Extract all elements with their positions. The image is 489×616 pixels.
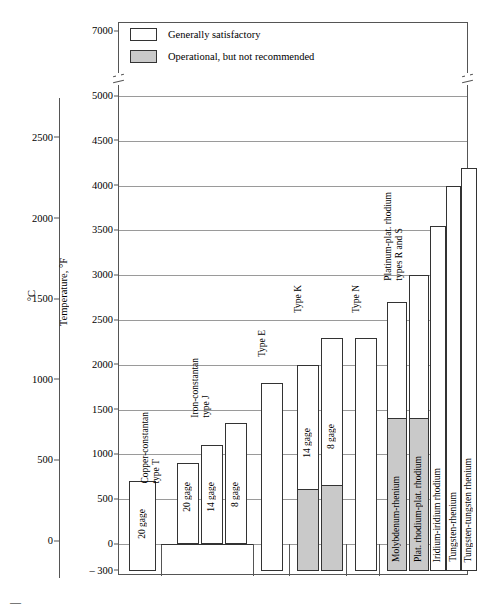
chart-legend: Generally satisfactory Operational, but …: [130, 28, 314, 72]
bar-label: Iridium-iridium rhodium: [432, 468, 442, 562]
gridline: [119, 230, 467, 231]
celsius-tick-label: 2500: [32, 131, 53, 142]
celsius-tick-label: 500: [37, 454, 53, 465]
bar-label: 8 gage: [230, 482, 240, 507]
bar-label: 20 gage: [137, 509, 147, 539]
celsius-axis-ticks: 25002000150010005000: [8, 0, 53, 616]
fahrenheit-tick-label: 4000: [92, 179, 113, 190]
fahrenheit-tick-label: 2500: [92, 314, 113, 325]
fahrenheit-tick-label: 5000: [92, 90, 113, 101]
bar-label: 20 gage: [182, 482, 192, 512]
fahrenheit-tick-label: – 300: [89, 564, 113, 575]
legend-label-operational: Operational, but not recommended: [168, 51, 314, 62]
fahrenheit-tick-label: 500: [97, 493, 113, 504]
fahrenheit-tick-label: 2000: [92, 358, 113, 369]
legend-swatch-satisfactory: [130, 28, 157, 41]
bar: [297, 365, 319, 571]
bar-operational-segment: [322, 485, 342, 570]
group-separator: [253, 544, 254, 576]
bar-operational-segment: [298, 489, 318, 570]
bar-label: Molybdenum-rhenium: [391, 476, 401, 562]
fahrenheit-tick-label: 0: [108, 538, 113, 549]
bar-label: Tungsten-rhenium: [448, 492, 458, 562]
group-title: Copper-constantantype T: [140, 412, 161, 484]
gridline: [119, 141, 467, 142]
axis-break-left: [113, 73, 124, 85]
gridline: [119, 186, 467, 187]
fahrenheit-tick-label: 3500: [92, 224, 113, 235]
celsius-axis-line: [59, 98, 60, 578]
bar-label: 14 gage: [206, 482, 216, 512]
axis-break-right: [462, 73, 473, 85]
legend-swatch-operational: [130, 50, 157, 63]
fahrenheit-axis-title: Temperature, °F: [58, 258, 69, 326]
fahrenheit-tick-label: 7000: [92, 25, 113, 36]
bar-label: 8 gage: [326, 424, 336, 449]
figure-mark: —: [10, 596, 21, 608]
group-title: Iron-constantantype J: [190, 358, 211, 418]
bar: [321, 338, 343, 571]
bar-label: 14 gage: [302, 428, 312, 458]
celsius-tick-label: 2000: [32, 212, 53, 223]
fahrenheit-tick-label: 3000: [92, 269, 113, 280]
celsius-tick-label: 0: [48, 535, 53, 546]
legend-label-satisfactory: Generally satisfactory: [168, 29, 260, 40]
bar-label: Tungsten-tungsten rhenium: [463, 458, 473, 562]
group-title: Platinum-plat. rhodiumtypes R and S: [383, 192, 404, 281]
group-separator: [346, 544, 347, 576]
fahrenheit-tick-label: 1000: [92, 448, 113, 459]
gridline: [119, 96, 467, 97]
group-title: Type K: [293, 285, 304, 313]
celsius-tick-label: 1000: [32, 373, 53, 384]
fahrenheit-axis-ticks: 7000500045004000350030002500200015001000…: [72, 0, 113, 616]
legend-item-satisfactory: Generally satisfactory: [130, 28, 314, 41]
fahrenheit-tick-label: 4500: [92, 134, 113, 145]
baseline-segment: [161, 544, 253, 572]
bar: [355, 338, 377, 571]
legend-item-operational: Operational, but not recommended: [130, 50, 314, 63]
bar: [261, 383, 283, 571]
fahrenheit-tick-label: 1500: [92, 403, 113, 414]
group-title: Type N: [351, 285, 362, 313]
group-separator: [289, 544, 290, 576]
bar-label: Plat. rhodium-plat. rhodium: [413, 456, 423, 562]
group-separator: [379, 544, 380, 576]
group-title: Type E: [257, 330, 268, 357]
celsius-axis-title: °C: [26, 290, 37, 301]
